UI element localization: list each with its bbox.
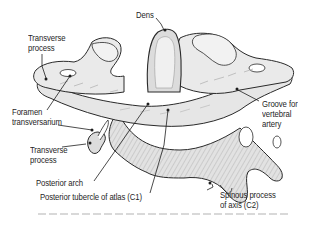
dens bbox=[147, 29, 181, 92]
figure-caption-faded bbox=[38, 213, 288, 215]
cervical-vertebrae-diagram: Dens Transverse process Foramen transver… bbox=[0, 0, 313, 226]
axis-c2 bbox=[109, 112, 282, 202]
label-dens: Dens bbox=[136, 10, 154, 20]
label-groove-vertebral-artery: Groove for vertebral artery bbox=[262, 99, 298, 129]
label-posterior-tubercle-atlas: Posterior tubercle of atlas (C1) bbox=[40, 192, 142, 202]
label-transverse-process-lower: Transverse process bbox=[30, 145, 68, 165]
label-transverse-process-upper: Transverse process bbox=[28, 33, 66, 53]
label-posterior-arch: Posterior arch bbox=[36, 178, 83, 188]
label-spinous-process-axis: Spinous process of axis (C2) bbox=[220, 190, 276, 210]
label-foramen-transversarium: Foramen transversarium bbox=[12, 107, 62, 127]
transverse-process-c2-left bbox=[88, 120, 109, 153]
